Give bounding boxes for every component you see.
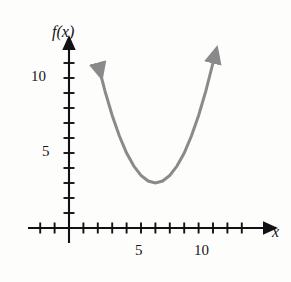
y-tick-label-10: 10: [31, 69, 46, 84]
y-tick-label-5: 5: [42, 144, 50, 159]
parabola-path: [99, 60, 214, 183]
plot-canvas: [0, 0, 291, 282]
y-axis-label: f(x): [52, 24, 74, 40]
y-axis: [64, 48, 75, 243]
parabola-curve: [99, 60, 214, 183]
x-axis: [28, 223, 265, 234]
x-tick-label-10: 10: [194, 243, 209, 258]
graph-figure: f(x) x 10 5 5 10: [0, 0, 291, 282]
x-tick-label-5: 5: [135, 243, 143, 258]
x-axis-label: x: [272, 224, 279, 240]
